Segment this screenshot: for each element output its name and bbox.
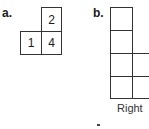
stray-mark — [97, 124, 100, 126]
grid-cell — [110, 76, 133, 99]
part-b-label: b. — [93, 7, 104, 19]
part-a-label: a. — [2, 7, 12, 19]
grid-cell: 1 — [20, 31, 42, 55]
grid-cell — [110, 53, 133, 77]
part-b-caption: Right — [117, 103, 143, 114]
grid-cell: 4 — [41, 31, 62, 55]
grid-cell: 2 — [41, 7, 62, 32]
grid-cell — [132, 76, 149, 99]
grid-cell — [110, 7, 133, 31]
grid-cell — [110, 30, 133, 54]
grid-cell — [132, 53, 149, 77]
